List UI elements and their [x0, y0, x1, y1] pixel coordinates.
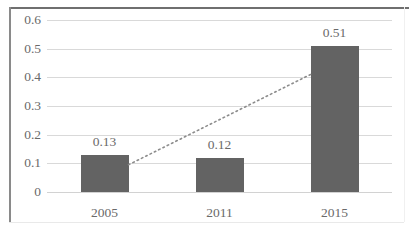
- chart-frame-top-border: [9, 7, 409, 9]
- gridline: [47, 192, 392, 193]
- bar-value-label: 0.13: [65, 135, 145, 149]
- y-axis-tick-label: 0.2: [7, 128, 41, 142]
- y-axis-tick-label: 0.4: [7, 71, 41, 85]
- y-axis-tick-label: 0: [7, 185, 41, 199]
- y-axis-tick-label: 0.5: [7, 42, 41, 56]
- y-axis-tick-label: 0.3: [7, 99, 41, 113]
- y-axis-tick-label: 0.1: [7, 157, 41, 171]
- chart-frame-right-border: [404, 7, 405, 222]
- trendline: [47, 20, 392, 192]
- chart-frame-bottom-border: [9, 222, 404, 223]
- y-axis-tick-label: 0.6: [7, 13, 41, 27]
- x-axis-tick-label: 2005: [65, 206, 145, 220]
- bar-chart-figure: 0.60.50.40.30.20.10 0.130.120.51 2005201…: [0, 0, 411, 230]
- bar-value-label: 0.12: [180, 138, 260, 152]
- x-axis-tick-label: 2015: [295, 206, 375, 220]
- plot-area: 0.60.50.40.30.20.10 0.130.120.51 2005201…: [47, 20, 392, 192]
- bar-value-label: 0.51: [295, 26, 375, 40]
- x-axis-tick-label: 2011: [180, 206, 260, 220]
